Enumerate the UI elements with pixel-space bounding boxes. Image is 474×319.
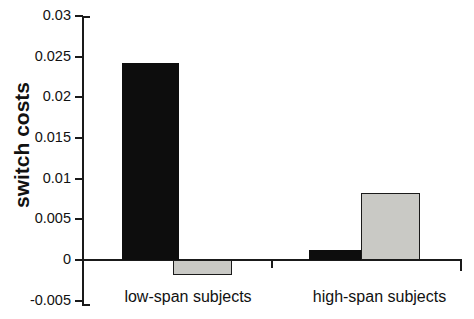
y-tick-label-4: 0.01 xyxy=(0,170,71,186)
y-tick-label-1: 0.025 xyxy=(0,48,71,64)
y-tick-label-6: 0 xyxy=(0,251,71,267)
y-tick-label-7: -0.005 xyxy=(0,292,71,308)
y-tick-label-2: 0.02 xyxy=(0,88,71,104)
y-tick-5 xyxy=(75,218,83,220)
y-tick-3 xyxy=(75,137,83,139)
y-axis-bottom-cap xyxy=(82,304,90,306)
y-tick-2 xyxy=(75,96,83,98)
y-tick-0 xyxy=(75,15,83,17)
x-category-label-high-span: high-span subjects xyxy=(292,288,467,306)
y-tick-label-5: 0.005 xyxy=(0,210,71,226)
y-tick-label-0: 0.03 xyxy=(0,7,71,23)
y-axis-title: switch costs xyxy=(10,55,34,235)
y-axis-spine xyxy=(82,16,84,306)
x-tick-end xyxy=(460,261,462,271)
bar-low-span-black xyxy=(122,63,179,260)
y-tick-4 xyxy=(75,178,83,180)
x-tick-middle xyxy=(271,261,273,268)
x-category-label-low-span: low-span subjects xyxy=(104,288,272,306)
y-tick-1 xyxy=(75,56,83,58)
y-axis-top-cap xyxy=(82,16,90,18)
bar-low-span-gray xyxy=(173,260,232,275)
y-tick-7 xyxy=(75,300,83,302)
bar-high-span-gray xyxy=(361,193,420,260)
bar-high-span-black xyxy=(309,250,362,260)
bar-chart: switch costs 0.03 0.025 0.02 0.015 0.01 … xyxy=(0,0,474,319)
y-tick-label-3: 0.015 xyxy=(0,129,71,145)
